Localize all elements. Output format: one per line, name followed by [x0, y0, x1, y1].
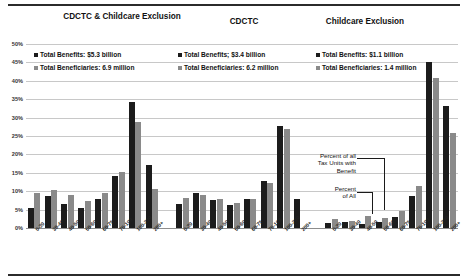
bar — [45, 196, 51, 228]
bar — [129, 102, 135, 228]
y-axis-tick-label: 45% — [12, 59, 23, 65]
bar — [284, 129, 290, 228]
bar — [426, 62, 432, 228]
group-title-cdctc-and-childcare-exclusion: CDCTC & Childcare Exclusion — [62, 12, 182, 22]
chart-container: CDCTC & Childcare Exclusion CDCTC Childc… — [0, 0, 464, 280]
bar — [176, 204, 182, 228]
legend-swatch-benefit-icon — [178, 53, 182, 57]
bar — [193, 193, 199, 228]
bar — [433, 78, 439, 229]
legend-swatch-all-icon — [178, 66, 182, 70]
y-axis-tick-label: 10% — [12, 188, 23, 194]
y-axis-tick-label: 15% — [12, 170, 23, 176]
legend-label-total-benefits: Total Benefits: $5.3 billion — [40, 51, 121, 58]
legend-swatch-all-icon — [34, 66, 38, 70]
y-axis-tick-label: 30% — [12, 115, 23, 121]
y-axis-tick-label: 35% — [12, 96, 23, 102]
legend-swatch-benefit-icon — [34, 53, 38, 57]
top-rule — [8, 4, 460, 6]
legend-label-total-beneficiaries: Total Beneficiaries: 6.9 million — [40, 64, 134, 71]
x-axis-labels: 0-3030-4040-5050-6060-7575-100100-200200… — [26, 228, 458, 274]
group-titles: CDCTC & Childcare Exclusion CDCTC Childc… — [0, 12, 464, 38]
y-axis-tick-label: 5% — [15, 207, 23, 213]
bar — [443, 106, 449, 228]
legend-label-total-beneficiaries: Total Beneficiaries: 1.4 million — [322, 64, 416, 71]
bar — [78, 208, 84, 228]
group-title-childcare-exclusion: Childcare Exclusion — [300, 17, 430, 27]
legend-item-total-beneficiaries: Total Beneficiaries: 6.9 million — [34, 61, 134, 74]
y-axis-tick-label: 40% — [12, 78, 23, 84]
legend-label-total-beneficiaries: Total Beneficiaries: 6.2 million — [184, 64, 278, 71]
y-axis-tick-label: 25% — [12, 133, 23, 139]
legend-item-total-beneficiaries: Total Beneficiaries: 1.4 million — [316, 61, 416, 74]
bottom-rule — [8, 274, 460, 276]
bar — [28, 208, 34, 228]
y-axis-tick-label: 50% — [12, 41, 23, 47]
bar — [135, 122, 141, 228]
legend-group-cdctc: Total Benefits; $3.4 billion Total Benef… — [178, 48, 278, 74]
legend-item-total-beneficiaries: Total Beneficiaries: 6.2 million — [178, 61, 278, 74]
bar — [277, 126, 283, 228]
legend-group-childcare-exclusion: Total Benefits: $1.1 billion Total Benef… — [316, 48, 416, 74]
group-title-cdctc: CDCTC — [196, 17, 292, 27]
y-axis-tick-label: 20% — [12, 151, 23, 157]
legend-group-cdctc-and-childcare-exclusion: Total Benefits: $5.3 billion Total Benef… — [34, 48, 134, 74]
legend-swatch-benefit-icon — [316, 53, 320, 57]
legend-label-total-benefits: Total Benefits: $1.1 billion — [322, 51, 403, 58]
legend-label-total-benefits: Total Benefits; $3.4 billion — [184, 51, 265, 58]
legend-item-total-benefits: Total Benefits: $5.3 billion — [34, 48, 134, 61]
bar — [119, 172, 125, 228]
bar — [450, 133, 456, 228]
legend-item-total-benefits: Total Benefits: $1.1 billion — [316, 48, 416, 61]
legend-item-total-benefits: Total Benefits; $3.4 billion — [178, 48, 278, 61]
y-axis-tick-label: 0% — [15, 225, 23, 231]
chart-legend: Total Benefits: $5.3 billion Total Benef… — [26, 48, 464, 76]
legend-swatch-all-icon — [316, 66, 320, 70]
